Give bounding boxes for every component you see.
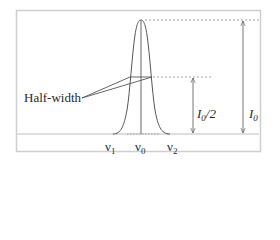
half-width-leader-1	[82, 77, 130, 98]
peak-intensity-label: I0	[249, 107, 258, 123]
half-width-leader-2	[82, 77, 152, 98]
half-width-label: Half-width	[24, 91, 81, 104]
nu1-label: ν1	[105, 140, 115, 156]
nu2-label: ν2	[167, 140, 177, 156]
half-intensity-label: I0/2	[197, 107, 216, 123]
nu0-label: ν0	[135, 140, 145, 156]
